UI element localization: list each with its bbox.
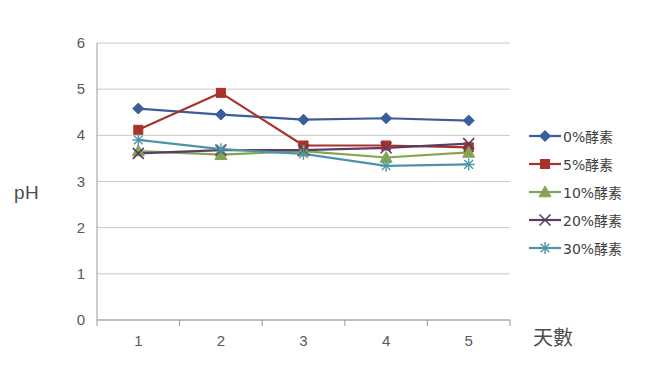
legend-item[interactable]: 10%酵素 — [528, 178, 653, 206]
legend-item[interactable]: 20%酵素 — [528, 206, 653, 234]
data-point-diamond — [298, 114, 309, 125]
legend-label: 30%酵素 — [563, 238, 622, 258]
legend-marker-icon — [528, 128, 562, 144]
data-point-square — [134, 125, 143, 134]
series-markers-0%酵素 — [133, 103, 474, 126]
chart-legend: 0%酵素5%酵素10%酵素20%酵素30%酵素 — [528, 122, 653, 262]
legend-marker-icon — [528, 184, 562, 200]
chart-container: pH 天數 0123456 12345 0%酵素5%酵素10%酵素20%酵素30… — [0, 0, 657, 373]
data-point-diamond — [133, 103, 144, 114]
legend-label: 20%酵素 — [563, 210, 622, 230]
legend-marker-icon — [528, 212, 562, 228]
data-point-square — [541, 160, 550, 169]
legend-marker-icon — [528, 240, 562, 256]
legend-item[interactable]: 30%酵素 — [528, 234, 653, 262]
legend-label: 10%酵素 — [563, 182, 622, 202]
legend-item[interactable]: 5%酵素 — [528, 150, 653, 178]
data-point-diamond — [463, 115, 474, 126]
legend-label: 0%酵素 — [563, 126, 613, 146]
data-point-square — [216, 88, 225, 97]
legend-marker-icon — [528, 156, 562, 172]
data-point-diamond — [540, 131, 551, 142]
legend-label: 5%酵素 — [563, 154, 613, 174]
data-point-diamond — [381, 113, 392, 124]
data-point-diamond — [215, 109, 226, 120]
legend-item[interactable]: 0%酵素 — [528, 122, 653, 150]
